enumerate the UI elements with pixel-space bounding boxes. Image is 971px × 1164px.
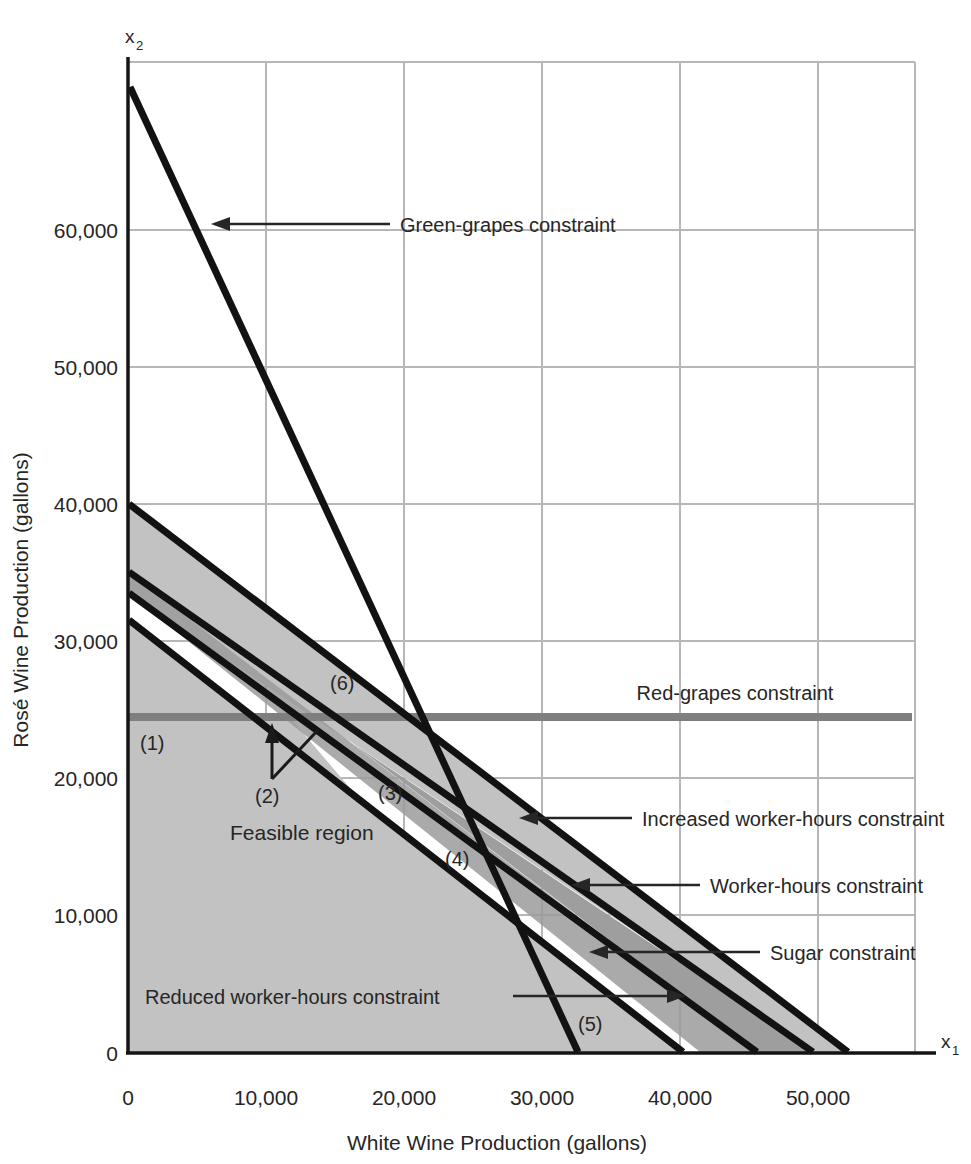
red-grapes-callout: Red-grapes constraint (637, 682, 834, 704)
red-grapes-callout-label: Red-grapes constraint (637, 682, 834, 704)
vertex-label-6: (6) (330, 672, 354, 694)
y-axis-title: Rosé Wine Production (gallons) (9, 452, 32, 747)
x-tick-label-20000: 20,000 (372, 1086, 436, 1109)
vertex-label-2: (2) (255, 785, 279, 807)
x-tick-label-0: 0 (122, 1086, 134, 1109)
x-tick-label-50000: 50,000 (786, 1086, 850, 1109)
reduced-wh-callout-label: Reduced worker-hours constraint (145, 986, 440, 1008)
y-axis-variable-subscript: 2 (136, 38, 143, 53)
x-axis-variable: x (941, 1031, 951, 1052)
vertex-label-3: (3) (378, 782, 402, 804)
x-axis-title: White Wine Production (gallons) (347, 1131, 647, 1154)
y-tick-label-50000: 50,000 (54, 356, 118, 379)
worker-hours-callout-label: Worker-hours constraint (710, 875, 923, 897)
vertex-label-5: (5) (578, 1013, 602, 1035)
vertex-label-1: (1) (140, 732, 164, 754)
y-tick-label-0: 0 (106, 1042, 118, 1065)
y-tick-label-30000: 30,000 (54, 630, 118, 653)
x-tick-label-30000: 30,000 (510, 1086, 574, 1109)
y-tick-label-20000: 20,000 (54, 767, 118, 790)
sugar-callout-label: Sugar constraint (770, 942, 916, 964)
feasible-region-label: Feasible region (230, 821, 374, 844)
x-tick-label-10000: 10,000 (234, 1086, 298, 1109)
x-axis-variable-subscript: 1 (952, 1043, 959, 1058)
green-grapes-callout-label: Green-grapes constraint (400, 214, 616, 236)
chart-svg: x 2 x 1 0 10,000 20,000 30,000 40,000 50… (0, 0, 971, 1164)
vertex-label-4: (4) (445, 848, 469, 870)
y-axis-variable: x (125, 26, 135, 47)
y-tick-label-40000: 40,000 (54, 493, 118, 516)
y-tick-label-60000: 60,000 (54, 219, 118, 242)
increased-wh-callout-label: Increased worker-hours constraint (642, 808, 945, 830)
x-tick-label-40000: 40,000 (648, 1086, 712, 1109)
linear-programming-chart: x 2 x 1 0 10,000 20,000 30,000 40,000 50… (0, 0, 971, 1164)
y-tick-label-10000: 10,000 (54, 904, 118, 927)
